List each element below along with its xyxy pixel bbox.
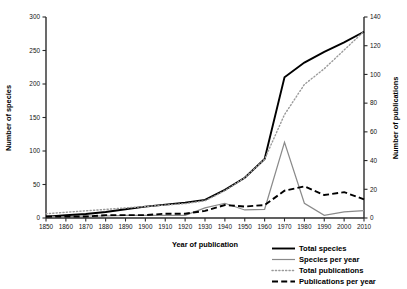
series-line-publications-per-year bbox=[46, 186, 364, 216]
x-axis-tick-label: 2010 bbox=[357, 223, 372, 230]
y-axis-right-tick-label: 80 bbox=[370, 99, 378, 106]
x-axis-tick-label: 1990 bbox=[317, 223, 332, 230]
y-axis-left-tick-label: 250 bbox=[29, 47, 40, 54]
x-axis-tick-label: 2000 bbox=[337, 223, 352, 230]
y-axis-right-tick-label: 40 bbox=[370, 157, 378, 164]
y-axis-left-tick-label: 100 bbox=[29, 147, 40, 154]
legend-item-total-publications: Total publications bbox=[272, 266, 363, 275]
legend-label-total-species: Total species bbox=[299, 244, 347, 253]
x-axis-tick-label: 1920 bbox=[178, 223, 193, 230]
data-series-group bbox=[46, 31, 364, 216]
y-axis-right-tick-label: 0 bbox=[370, 214, 374, 221]
y-axis-right-tick-label: 20 bbox=[370, 186, 378, 193]
legend-item-publications-per-year: Publications per year bbox=[272, 277, 376, 286]
y-axis-right-tick-label: 120 bbox=[370, 42, 381, 49]
x-axis-tick-label: 1890 bbox=[118, 223, 133, 230]
x-axis-tick-label: 1880 bbox=[99, 223, 114, 230]
y-axis-left-tick-label: 300 bbox=[29, 13, 40, 20]
x-axis-tick-label: 1950 bbox=[238, 223, 253, 230]
y-axis-left-title: Number of species bbox=[4, 85, 13, 151]
x-axis-tick-label: 1860 bbox=[59, 223, 74, 230]
x-axis-tick-label: 1960 bbox=[258, 223, 273, 230]
chart-legend: Total species Species per year Total pub… bbox=[272, 244, 376, 286]
series-line-total-species bbox=[46, 32, 364, 217]
y-axis-right-title: Number of publications bbox=[391, 77, 400, 160]
x-axis-tick-label: 1910 bbox=[158, 223, 173, 230]
chart-container: 1850186018701880189019001910192019301940… bbox=[0, 0, 407, 289]
axes-group bbox=[46, 17, 364, 218]
x-axis-tick-label: 1930 bbox=[198, 223, 213, 230]
y-axis-left-tick-label: 150 bbox=[29, 114, 40, 121]
x-axis-tick-label: 1870 bbox=[79, 223, 94, 230]
y-axis-left-tick-label: 200 bbox=[29, 80, 40, 87]
y-axis-right-tick-label: 100 bbox=[370, 71, 381, 78]
series-line-species-per-year bbox=[46, 142, 364, 216]
x-axis-tick-label: 1980 bbox=[297, 223, 312, 230]
tick-labels-group: 1850186018701880189019001910192019301940… bbox=[29, 13, 381, 230]
x-axis-tick-label: 1850 bbox=[39, 223, 54, 230]
ticks-group bbox=[43, 17, 368, 222]
publications-species-line-chart: 1850186018701880189019001910192019301940… bbox=[0, 0, 407, 289]
legend-label-species-per-year: Species per year bbox=[299, 255, 359, 264]
y-axis-right-tick-label: 140 bbox=[370, 13, 381, 20]
x-axis-tick-label: 1970 bbox=[277, 223, 292, 230]
x-axis-tick-label: 1900 bbox=[138, 223, 153, 230]
y-axis-left-tick-label: 0 bbox=[36, 214, 40, 221]
x-axis-title: Year of publication bbox=[172, 240, 239, 249]
legend-item-species-per-year: Species per year bbox=[272, 255, 359, 264]
legend-label-publications-per-year: Publications per year bbox=[299, 277, 376, 286]
series-line-total-publications bbox=[46, 31, 364, 213]
legend-label-total-publications: Total publications bbox=[299, 266, 363, 275]
legend-item-total-species: Total species bbox=[272, 244, 347, 253]
x-axis-tick-label: 1940 bbox=[218, 223, 233, 230]
y-axis-right-tick-label: 60 bbox=[370, 128, 378, 135]
y-axis-left-tick-label: 50 bbox=[33, 181, 41, 188]
